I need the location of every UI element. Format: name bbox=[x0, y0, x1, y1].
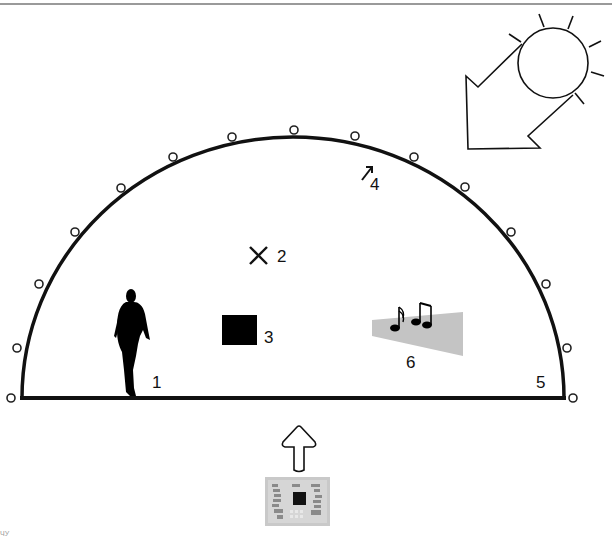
sensor-circle bbox=[542, 280, 550, 288]
sensor-circle bbox=[351, 132, 359, 140]
label-black-square: 3 bbox=[264, 329, 273, 346]
sensor-circle bbox=[7, 394, 15, 402]
label-person: 1 bbox=[152, 374, 161, 391]
up-arrow-icon bbox=[282, 426, 315, 472]
sensor-circle bbox=[569, 394, 577, 402]
label-corner-marker: 5 bbox=[536, 374, 545, 391]
sensor-circles bbox=[7, 126, 577, 402]
person-silhouette-icon bbox=[114, 289, 150, 396]
sensor-circle bbox=[228, 133, 236, 141]
sensor-circle bbox=[290, 126, 298, 134]
circuit-board-icon bbox=[265, 477, 330, 526]
sensor-circle bbox=[507, 228, 515, 236]
label-small-arrow: 4 bbox=[370, 176, 379, 193]
sensor-circle bbox=[117, 184, 125, 192]
corner-text: ЧУ bbox=[0, 530, 9, 537]
sensor-circle bbox=[13, 344, 21, 352]
sun-icon bbox=[509, 14, 604, 104]
sensor-circle bbox=[71, 228, 79, 236]
cross-marker-icon bbox=[250, 247, 267, 264]
sound-beam bbox=[372, 312, 463, 356]
label-sound-zone: 6 bbox=[406, 354, 415, 371]
dome-arc bbox=[22, 137, 564, 398]
sensor-circle bbox=[169, 153, 177, 161]
label-cross-marker: 2 bbox=[277, 248, 286, 265]
sensor-circle bbox=[410, 153, 418, 161]
sensor-circle bbox=[563, 344, 571, 352]
diagram-canvas bbox=[0, 0, 612, 540]
sensor-circle bbox=[461, 183, 469, 191]
sensor-circle bbox=[35, 280, 43, 288]
black-square bbox=[222, 315, 257, 345]
